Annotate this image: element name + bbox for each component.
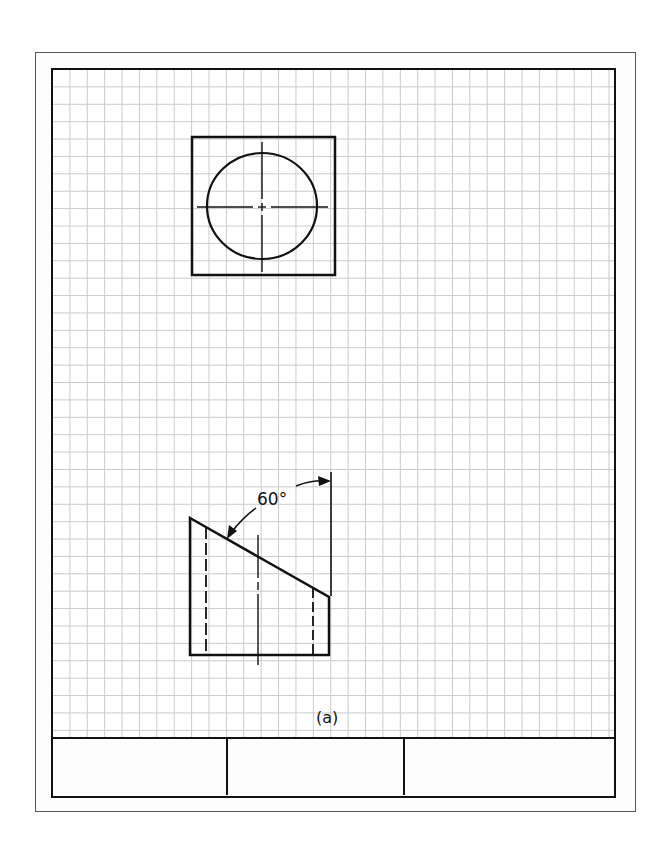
top-view [192,137,335,275]
angle-arc-left [231,508,256,533]
figure-caption: (a) [316,708,338,727]
technical-drawing: 60° (a) [0,0,672,858]
arrowhead-right-icon [318,476,331,486]
top-view-square [192,137,335,275]
front-view-outline [190,518,329,655]
angle-label: 60° [257,489,287,509]
top-view-center-lines [197,142,328,272]
